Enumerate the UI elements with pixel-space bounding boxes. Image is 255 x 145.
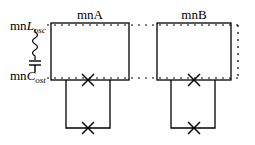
module-a-loop — [66, 80, 110, 128]
module-b-label: mnB — [181, 7, 207, 22]
module-a-label: mnA — [77, 7, 104, 22]
circuit-diagram: mnA mnB mnLosc mnCost — [0, 0, 255, 145]
module-b-loop — [171, 80, 215, 128]
capacitor-label: mnCost — [10, 68, 46, 85]
module-a-box — [51, 23, 129, 80]
inductor-label: mnLosc — [10, 18, 46, 35]
dotted-connections — [47, 25, 238, 78]
module-b-box — [157, 23, 231, 80]
